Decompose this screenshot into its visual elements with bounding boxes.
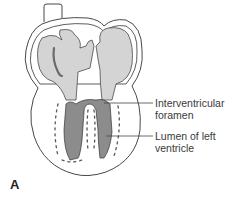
label-line: ventricle	[155, 142, 216, 154]
label-line: foramen	[155, 109, 224, 121]
label-interventricular-foramen: Interventricular foramen	[155, 97, 224, 121]
label-lumen-left-ventricle: Lumen of left ventricle	[155, 130, 216, 154]
label-line: Lumen of left	[155, 130, 216, 142]
label-line: Interventricular	[155, 97, 224, 109]
panel-letter: A	[10, 177, 19, 192]
